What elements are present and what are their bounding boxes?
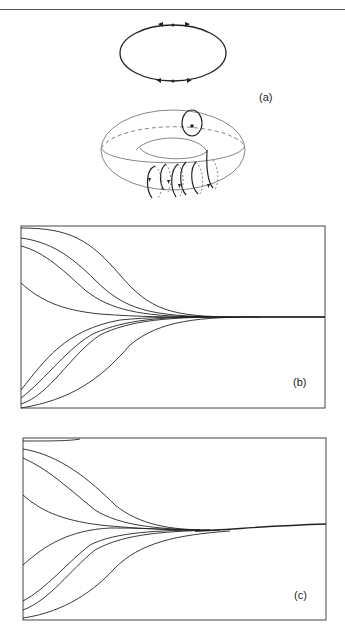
limit-cycle-ellipse	[120, 25, 226, 81]
panel-c-plot	[23, 438, 326, 620]
ellipse-arrow-markers	[156, 22, 192, 83]
panel-b-plot	[21, 226, 325, 408]
torus-arrowheads	[148, 178, 210, 188]
panel-label-c: (c)	[294, 589, 307, 601]
torus-meridian-circle	[182, 110, 202, 136]
figure-canvas	[0, 0, 345, 635]
panel-label-a: (a)	[259, 91, 272, 103]
panel-label-b: (b)	[293, 376, 306, 388]
torus-drawing	[101, 110, 245, 190]
